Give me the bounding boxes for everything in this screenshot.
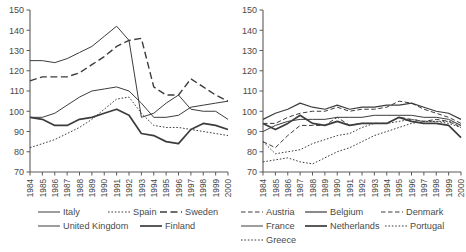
x-axis-tick-label: 1998	[432, 179, 441, 198]
x-axis-tick-label: 1985	[39, 179, 48, 198]
chart-left-panel: 7080901001101201301401501984198519861987…	[0, 0, 233, 252]
legend-label-united-kingdom: United Kingdom	[63, 221, 129, 231]
x-axis-tick-label: 1984	[26, 179, 35, 198]
y-axis-tick-label: 140	[9, 26, 24, 36]
x-axis-tick-label: 1989	[321, 179, 330, 198]
x-axis-tick-label: 1987	[63, 179, 72, 198]
x-axis-tick-label: 1989	[88, 179, 97, 198]
x-axis-tick-label: 2000	[457, 179, 466, 198]
y-axis-tick-label: 130	[242, 46, 257, 56]
x-axis-tick-label: 1994	[383, 179, 392, 198]
figure-container: 7080901001101201301401501984198519861987…	[0, 0, 466, 252]
y-axis-tick-label: 70	[247, 167, 257, 177]
chart-right-panel: 7080901001101201301401501984198519861987…	[233, 0, 466, 252]
x-axis-tick-label: 1999	[212, 179, 221, 198]
x-axis-tick-label: 1997	[420, 179, 429, 198]
x-axis-tick-label: 1997	[187, 179, 196, 198]
x-axis-tick-label: 1991	[113, 179, 122, 198]
legend-label-netherlands: Netherlands	[330, 221, 380, 231]
x-axis-tick-label: 1987	[296, 179, 305, 198]
x-axis-tick-label: 1988	[309, 179, 318, 198]
series-line-finland	[30, 109, 228, 143]
y-axis-tick-label: 150	[242, 5, 257, 15]
legend-label-greece: Greece	[266, 235, 296, 245]
x-axis-tick-label: 1991	[346, 179, 355, 198]
legend-label-austria: Austria	[266, 207, 295, 217]
y-axis-tick-label: 100	[242, 107, 257, 117]
x-axis-tick-label: 1999	[445, 179, 454, 198]
x-axis-tick-label: 1993	[138, 179, 147, 198]
legend-label-spain: Spain	[133, 207, 157, 217]
x-axis-tick-label: 1995	[162, 179, 171, 198]
y-axis-tick-label: 150	[9, 5, 24, 15]
y-axis-tick-label: 110	[10, 86, 24, 96]
y-axis-tick-label: 140	[242, 26, 257, 36]
y-axis-tick-label: 90	[247, 127, 257, 137]
y-axis-tick-label: 120	[9, 66, 24, 76]
series-line-portugal	[263, 119, 461, 153]
x-axis-tick-label: 1986	[51, 179, 60, 198]
legend-label-sweden: Sweden	[185, 207, 218, 217]
x-axis-tick-label: 1990	[100, 179, 109, 198]
x-axis-tick-label: 1985	[272, 179, 281, 198]
x-axis-tick-label: 1984	[259, 179, 268, 198]
series-line-united-kingdom	[30, 87, 228, 117]
series-line-greece	[263, 121, 461, 164]
legend-label-italy: Italy	[63, 207, 80, 217]
series-line-sweden	[30, 38, 228, 101]
x-axis-tick-label: 1996	[408, 179, 417, 198]
x-axis-tick-label: 1986	[284, 179, 293, 198]
x-axis-tick-label: 1992	[358, 179, 367, 198]
x-axis-tick-label: 2000	[224, 179, 233, 198]
x-axis-tick-label: 1993	[371, 179, 380, 198]
y-axis-tick-label: 120	[242, 66, 257, 76]
x-axis-tick-label: 1995	[395, 179, 404, 198]
y-axis-tick-label: 90	[14, 127, 24, 137]
series-line-spain	[30, 97, 228, 148]
legend-label-portugal: Portugal	[410, 221, 444, 231]
legend-label-belgium: Belgium	[330, 207, 364, 217]
x-axis-tick-label: 1988	[76, 179, 85, 198]
x-axis-tick-label: 1996	[175, 179, 184, 198]
legend-label-denmark: Denmark	[406, 207, 444, 217]
chart-right-svg: 7080901001101201301401501984198519861987…	[233, 0, 466, 252]
x-axis-tick-label: 1992	[125, 179, 134, 198]
y-axis-tick-label: 100	[9, 107, 24, 117]
series-line-netherlands	[263, 115, 461, 137]
y-axis-tick-label: 80	[247, 147, 257, 157]
chart-left-svg: 7080901001101201301401501984198519861987…	[0, 0, 233, 252]
x-axis-tick-label: 1994	[150, 179, 159, 198]
y-axis-tick-label: 80	[14, 147, 24, 157]
x-axis-tick-label: 1998	[199, 179, 208, 198]
y-axis-tick-label: 130	[9, 46, 24, 56]
y-axis-tick-label: 70	[14, 167, 24, 177]
y-axis-tick-label: 110	[243, 86, 257, 96]
legend-label-france: France	[266, 221, 295, 231]
legend-label-finland: Finland	[165, 221, 195, 231]
x-axis-tick-label: 1990	[333, 179, 342, 198]
